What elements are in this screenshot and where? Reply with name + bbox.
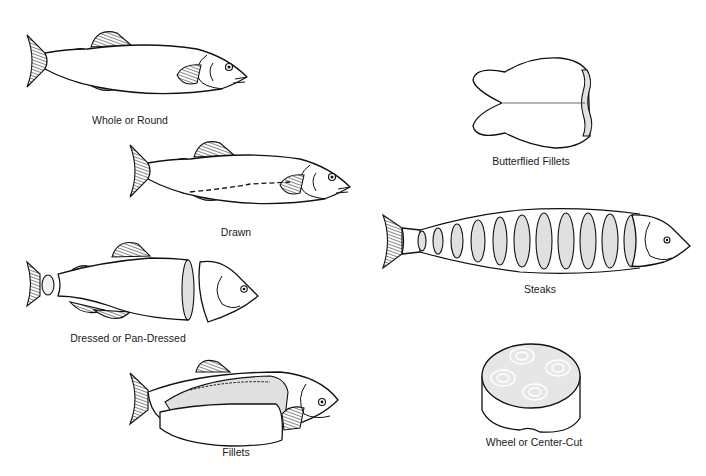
label-fillets: Fillets	[222, 446, 249, 458]
label-drawn: Drawn	[221, 226, 251, 238]
steaks-illustration	[383, 209, 690, 274]
fillets-illustration	[130, 360, 338, 446]
drawn-fish-illustration	[130, 142, 350, 204]
label-wheel: Wheel or Center-Cut	[486, 436, 582, 448]
label-dressed: Dressed or Pan-Dressed	[70, 332, 186, 344]
label-butterflied: Butterflied Fillets	[492, 155, 570, 167]
dressed-fish-illustration	[27, 243, 258, 322]
wheel-illustration	[482, 344, 580, 432]
label-whole: Whole or Round	[92, 114, 168, 126]
butterflied-fillets-illustration	[473, 58, 592, 148]
label-steaks: Steaks	[524, 283, 556, 295]
fish-market-forms-diagram: Whole or Round Drawn Dressed or Pan-Dres…	[0, 0, 706, 476]
whole-fish-illustration	[27, 32, 247, 94]
diagram-artwork	[0, 0, 706, 476]
